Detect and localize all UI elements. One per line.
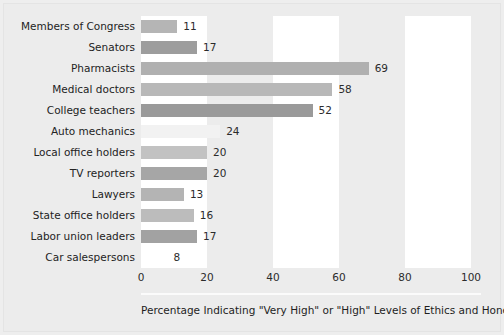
bar-value-label: 17 xyxy=(203,229,216,243)
bar-row: 58 xyxy=(141,79,471,100)
category-label: Members of Congress xyxy=(21,19,135,33)
bar xyxy=(141,62,369,75)
bar-row: 17 xyxy=(141,226,471,247)
bar xyxy=(141,104,313,117)
category-label: Medical doctors xyxy=(52,82,135,96)
x-tick-label: 60 xyxy=(332,271,345,283)
category-label: TV reporters xyxy=(70,166,135,180)
bar xyxy=(141,188,184,201)
bar xyxy=(141,209,194,222)
bar-row: 16 xyxy=(141,205,471,226)
bar-value-label: 58 xyxy=(338,82,351,96)
bar xyxy=(141,146,207,159)
category-label: Senators xyxy=(88,40,135,54)
x-axis-title: Percentage Indicating "Very High" or "Hi… xyxy=(141,304,481,316)
bar-value-label: 20 xyxy=(213,145,226,159)
x-tick-label: 100 xyxy=(461,271,481,283)
x-tick-label: 20 xyxy=(200,271,213,283)
category-label: State office holders xyxy=(33,208,135,222)
bar-value-label: 52 xyxy=(319,103,332,117)
x-tick-label: 0 xyxy=(138,271,145,283)
bar xyxy=(141,125,220,138)
bar-row: 20 xyxy=(141,142,471,163)
chart-figure: Members of CongressSenatorsPharmacistsMe… xyxy=(0,0,504,335)
category-label: College teachers xyxy=(47,103,135,117)
axis-separator-line xyxy=(141,293,481,295)
category-axis-labels: Members of CongressSenatorsPharmacistsMe… xyxy=(0,16,135,268)
x-tick-label: 40 xyxy=(266,271,279,283)
category-label: Pharmacists xyxy=(71,61,135,75)
bar-row: 17 xyxy=(141,37,471,58)
bar-value-label: 20 xyxy=(213,166,226,180)
category-label: Auto mechanics xyxy=(51,124,135,138)
bar-value-label: 17 xyxy=(203,40,216,54)
bar xyxy=(141,83,332,96)
bar-row: 20 xyxy=(141,163,471,184)
bar-value-label: 69 xyxy=(375,61,388,75)
x-axis-ticks: 020406080100 xyxy=(141,271,471,287)
bar xyxy=(141,20,177,33)
category-label: Car salespersons xyxy=(45,250,135,264)
bar xyxy=(141,230,197,243)
x-tick-label: 80 xyxy=(398,271,411,283)
bar-value-label: 11 xyxy=(183,19,196,33)
bar-row: 24 xyxy=(141,121,471,142)
bar-value-label: 24 xyxy=(226,124,239,138)
category-label: Local office holders xyxy=(33,145,135,159)
plot-area: 11176958522420201316178 xyxy=(141,16,471,268)
category-label: Lawyers xyxy=(92,187,135,201)
bar-value-label: 13 xyxy=(190,187,203,201)
category-label: Labor union leaders xyxy=(31,229,135,243)
bar-row: 8 xyxy=(141,247,471,268)
bar-value-label: 16 xyxy=(200,208,213,222)
bar xyxy=(141,167,207,180)
bar-row: 52 xyxy=(141,100,471,121)
bar-row: 11 xyxy=(141,16,471,37)
bar-row: 69 xyxy=(141,58,471,79)
bar-row: 13 xyxy=(141,184,471,205)
bar-value-label: 8 xyxy=(173,250,180,264)
bar xyxy=(141,41,197,54)
bar xyxy=(141,251,167,264)
